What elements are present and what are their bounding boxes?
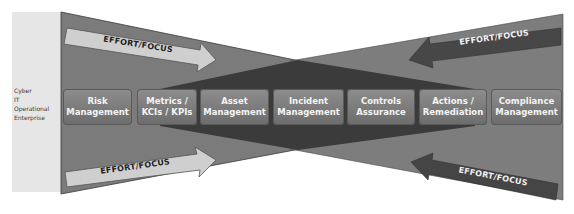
box-incident-management: IncidentManagement — [273, 89, 344, 125]
effort-focus-diagram: Cyber IT Operational Enterprise EFFORT/F… — [0, 0, 574, 214]
scope-label-it: IT — [14, 95, 60, 104]
box-asset-management: AssetManagement — [200, 89, 269, 125]
box-metrics-kcis-kpis: Metrics /KCIs / KPIs — [137, 89, 197, 125]
box-risk-management: RiskManagement — [63, 89, 132, 125]
scope-label-operational: Operational — [14, 104, 60, 113]
scope-label-enterprise: Enterprise — [14, 113, 60, 122]
scope-label-cyber: Cyber — [14, 86, 60, 95]
box-controls-assurance: ControlsAssurance — [347, 89, 415, 125]
box-compliance-management: ComplianceManagement — [491, 89, 562, 125]
box-actions-remediation: Actions /Remediation — [419, 89, 487, 125]
scope-labels: Cyber IT Operational Enterprise — [14, 86, 60, 122]
